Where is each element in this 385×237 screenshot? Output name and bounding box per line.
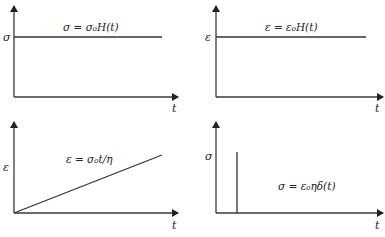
y-axis-label: ε xyxy=(3,161,9,174)
viscoelastic-response-diagram: σ t σ = σ₀H(t) ε t ε = ε₀H(t) ε t ε = σ₀… xyxy=(0,0,385,237)
y-axis-label: σ xyxy=(205,150,213,163)
y-axis-label: σ xyxy=(3,31,11,44)
x-axis-label: t xyxy=(172,102,177,115)
formula-label: ε = ε₀H(t) xyxy=(265,21,318,33)
x-axis-label: t xyxy=(172,219,177,232)
formula-label: σ = σ₀H(t) xyxy=(63,21,119,33)
panel-top-right: ε t ε = ε₀H(t) xyxy=(205,6,383,115)
formula-label: σ = ε₀ηδ(t) xyxy=(278,180,336,192)
y-axis-label: ε xyxy=(205,31,211,44)
panel-bottom-left: ε t ε = σ₀t/η xyxy=(3,122,178,232)
panel-bottom-right: σ t σ = ε₀ηδ(t) xyxy=(205,122,383,232)
panel-top-left: σ t σ = σ₀H(t) xyxy=(3,6,178,115)
x-axis-label: t xyxy=(375,102,380,115)
formula-label: ε = σ₀t/η xyxy=(66,153,113,165)
x-axis-label: t xyxy=(375,219,380,232)
